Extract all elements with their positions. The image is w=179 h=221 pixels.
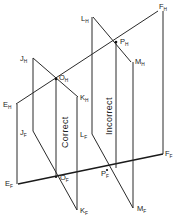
label-EF: EF — [5, 179, 13, 189]
label-MF: MF — [137, 204, 146, 214]
label-PH: PH — [120, 37, 129, 47]
point-OF-dot — [55, 176, 57, 178]
point-PF-dot — [106, 169, 108, 171]
label-correct: Correct — [60, 116, 70, 148]
label-KH: KH — [80, 93, 89, 103]
projection-diagram: EH FH JH KH OH LH MH PH EF FF JF KF OF L… — [0, 0, 179, 221]
line-LF-MF — [92, 134, 133, 208]
label-LF: LF — [80, 130, 87, 140]
label-JH: JH — [20, 54, 28, 64]
label-FF: FF — [165, 149, 173, 159]
label-JF: JF — [20, 128, 27, 138]
label-FH: FH — [159, 2, 168, 12]
label-LH: LH — [81, 14, 89, 24]
label-EH: EH — [3, 100, 12, 110]
line-LH-MH — [93, 17, 131, 62]
label-KF: KF — [80, 206, 88, 216]
point-PH-dot — [115, 41, 118, 44]
point-OH-dot — [55, 78, 58, 81]
label-OH: OH — [59, 73, 69, 83]
label-incorrect: Incorrect — [104, 97, 114, 135]
label-MH: MH — [135, 57, 145, 67]
line-EF-FF — [18, 154, 163, 184]
line-JF-KF — [33, 131, 77, 210]
